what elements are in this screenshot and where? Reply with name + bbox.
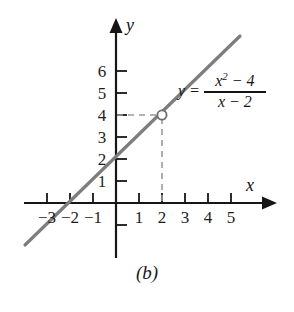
equation-fraction: x2 − 4 x − 2 (204, 71, 266, 110)
x-tick-label-neg1: −1 (81, 209, 105, 226)
y-tick-label-5: 5 (93, 85, 111, 102)
y-tick-label-3: 3 (93, 129, 111, 146)
y-axis-arrowhead (110, 18, 123, 33)
y-tick-label-4: 4 (93, 107, 111, 124)
x-tick-label-neg3: −3 (35, 209, 59, 226)
equation-lhs: y = (178, 83, 200, 99)
x-axis-arrowhead (262, 197, 277, 210)
y-tick-label-6: 6 (93, 63, 111, 80)
figure-caption: (b) (0, 262, 294, 284)
x-tick-label-3: 3 (176, 209, 194, 226)
equation-denominator: x − 2 (215, 93, 255, 111)
y-axis-label: y (126, 16, 134, 34)
equation-annotation: y = x2 − 4 x − 2 (178, 71, 266, 110)
x-tick-label-5: 5 (222, 209, 240, 226)
open-circle-hole-icon (157, 110, 166, 119)
x-tick-label-1: 1 (130, 209, 148, 226)
y-tick-label-2: 2 (93, 151, 111, 168)
x-tick-label-4: 4 (199, 209, 217, 226)
equation-numerator: x2 − 4 (212, 71, 257, 91)
x-axis-label: x (246, 176, 254, 194)
figure-container: −3 −2 −1 1 2 3 4 5 1 2 3 4 5 6 y x y = x… (0, 0, 294, 312)
y-tick-label-1: 1 (93, 173, 111, 190)
x-tick-label-neg2: −2 (58, 209, 82, 226)
x-tick-label-2: 2 (153, 209, 171, 226)
numerator-rest: − 4 (228, 72, 255, 89)
